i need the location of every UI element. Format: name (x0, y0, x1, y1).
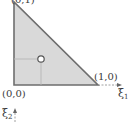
vertex-label-top: (0,1) (11, 0, 35, 5)
xi2-subscript: 2 (8, 113, 12, 121)
centroid-marker (38, 56, 44, 62)
xi1-subscript: 1 (124, 93, 128, 101)
xi2-arrow-icon (13, 108, 17, 113)
xi2-axis-label: ξ2 (2, 109, 13, 122)
vertex-label-origin: (0,0) (2, 89, 26, 99)
reference-triangle (14, 2, 98, 85)
xi1-axis-label: ξ1 (118, 89, 129, 102)
triangle-diagram (0, 0, 136, 126)
vertex-label-right: (1,0) (94, 72, 118, 82)
